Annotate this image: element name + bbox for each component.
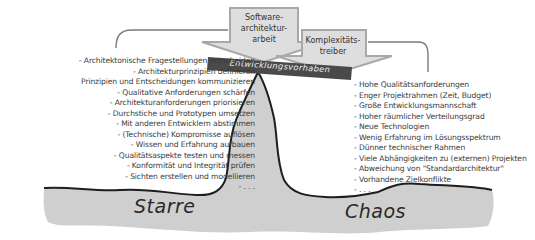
- list-item: - (Technische) Kompromisse auflösen: [79, 130, 255, 141]
- complexity-arrow-line: Komplexitäts-: [300, 35, 366, 46]
- software-arrow-line: architektur-: [232, 23, 296, 34]
- chaos-label: Chaos: [345, 200, 406, 222]
- list-item: - Durchstiche und Prototypen umsetzen: [79, 109, 255, 120]
- list-item: - . . .: [79, 182, 255, 193]
- list-item: - Qualitätsaspekte testen und messen: [79, 151, 255, 162]
- list-item: - Viele Abhängigkeiten zu (externen) Pro…: [354, 154, 527, 165]
- list-item: - Architekturanforderungen priorisieren: [79, 98, 255, 109]
- list-item: - . . .: [354, 185, 527, 196]
- software-arrow-line: Software-: [232, 12, 296, 23]
- architecture-tasks-list: - Architektonische Fragestellungen entsc…: [79, 56, 255, 193]
- list-item: Prinzipien und Entscheidungen kommunizie…: [79, 77, 255, 88]
- list-item: - Abweichung von "Standardarchitektur": [354, 164, 527, 175]
- list-item: - Dünner technischer Rahmen: [354, 143, 527, 154]
- list-item: - Architektonische Fragestellungen entsc…: [79, 56, 255, 67]
- list-item: - Konformität und Integrität prüfen: [79, 161, 255, 172]
- list-item: - Architekturprinzipien definieren: [79, 67, 255, 78]
- list-item: - Hohe Qualitätsanforderungen: [354, 80, 527, 91]
- list-item: - Hoher räumlicher Verteilungsgrad: [354, 112, 527, 123]
- software-arrow-line: arbeit: [232, 34, 296, 45]
- list-item: - Neue Technologien: [354, 122, 527, 133]
- rigidity-label: Starre: [134, 195, 195, 217]
- diagram-canvas: Software- architektur- arbeit Komplexitä…: [0, 0, 535, 240]
- complexity-arrow-line: treiber: [300, 46, 366, 57]
- list-item: - Große Entwicklungsmannschaft: [354, 101, 527, 112]
- list-item: - Qualitative Anforderungen schärfen: [79, 88, 255, 99]
- complexity-arrow-label: Komplexitäts- treiber: [300, 35, 366, 57]
- list-item: - Wenig Erfahrung im Lösungsspektrum: [354, 133, 527, 144]
- list-item: - Enger Projektrahmen (Zeit, Budget): [354, 91, 527, 102]
- list-item: - Vorhandene Zielkonflikte: [354, 175, 527, 186]
- software-arrow-label: Software- architektur- arbeit: [232, 12, 296, 45]
- complexity-drivers-list: - Hohe Qualitätsanforderungen - Enger Pr…: [354, 80, 527, 196]
- list-item: - Mit anderen Entwicklern abstimmen: [79, 119, 255, 130]
- list-item: - Sichten erstellen und modellieren: [79, 172, 255, 183]
- list-item: - Wissen und Erfahrung aufbauen: [79, 140, 255, 151]
